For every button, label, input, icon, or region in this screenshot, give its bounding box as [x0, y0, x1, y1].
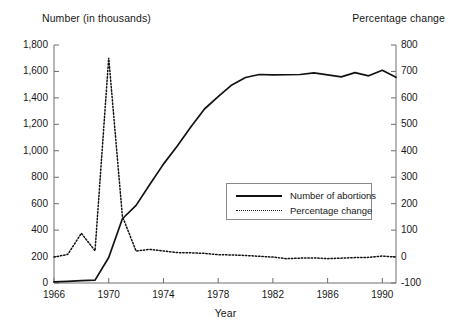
legend-line-sample-solid — [236, 195, 282, 197]
legend-label: Number of abortions — [290, 190, 376, 201]
left-axis-title: Number (in thousands) — [42, 12, 151, 24]
left-axis-tick-label: 0 — [0, 278, 48, 288]
x-axis-tick-label: 1974 — [141, 290, 185, 300]
right-axis-title: Percentage change — [352, 12, 445, 24]
x-axis-tick-label: 1986 — [306, 290, 350, 300]
legend-label: Percentage change — [290, 205, 372, 216]
legend-line-sample-dotted — [236, 210, 282, 211]
x-axis-tick-label: 1970 — [87, 290, 131, 300]
x-axis-ticks — [54, 278, 382, 283]
right-axis-tick-label: 600 — [401, 93, 449, 103]
left-axis-ticks — [54, 45, 59, 283]
series-line-percentage-change — [54, 58, 396, 259]
right-axis-tick-label: -100 — [401, 278, 449, 288]
x-axis-title: Year — [0, 307, 451, 319]
right-axis-tick-label: 0 — [401, 252, 449, 262]
right-axis-tick-label: 100 — [401, 225, 449, 235]
chart-legend: Number of abortions Percentage change — [226, 183, 372, 220]
axes — [54, 45, 396, 283]
left-axis-tick-label: 1,400 — [0, 93, 48, 103]
left-axis-tick-label: 400 — [0, 225, 48, 235]
x-axis-tick-label: 1978 — [196, 290, 240, 300]
legend-item-number-of-abortions: Number of abortions — [227, 188, 371, 203]
left-axis-tick-label: 1,000 — [0, 146, 48, 156]
right-axis-tick-label: 500 — [401, 119, 449, 129]
data-series-group — [54, 58, 396, 282]
right-axis-tick-label: 800 — [401, 40, 449, 50]
left-axis-tick-label: 1,600 — [0, 66, 48, 76]
left-axis-tick-label: 1,800 — [0, 40, 48, 50]
x-axis-tick-label: 1966 — [32, 290, 76, 300]
right-axis-ticks — [391, 45, 396, 283]
right-axis-tick-label: 700 — [401, 66, 449, 76]
chart-container: Number (in thousands) Percentage change … — [0, 0, 451, 330]
right-axis-tick-label: 200 — [401, 199, 449, 209]
right-axis-tick-label: 400 — [401, 146, 449, 156]
legend-item-percentage-change: Percentage change — [227, 203, 371, 218]
left-axis-tick-label: 200 — [0, 252, 48, 262]
right-axis-tick-label: 300 — [401, 172, 449, 182]
left-axis-tick-label: 600 — [0, 199, 48, 209]
x-axis-tick-label: 1990 — [360, 290, 404, 300]
left-axis-tick-label: 800 — [0, 172, 48, 182]
plot-area — [0, 0, 451, 330]
series-line-number-of-abortions — [54, 70, 396, 282]
x-axis-tick-label: 1982 — [251, 290, 295, 300]
left-axis-tick-label: 1,200 — [0, 119, 48, 129]
